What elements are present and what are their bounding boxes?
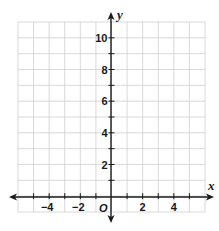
x-tick-label: 2 (140, 201, 146, 213)
y-tick-label: 2 (101, 159, 107, 171)
x-axis-label: x (207, 178, 215, 193)
coordinate-plane: −4−224246810 x y O (0, 0, 219, 231)
x-tick-label: −4 (41, 201, 54, 213)
y-tick-label: 4 (101, 127, 108, 139)
origin-label: O (99, 202, 108, 214)
x-tick-label: −2 (72, 201, 85, 213)
y-tick-label: 10 (95, 32, 107, 44)
x-tick-label: 4 (171, 201, 178, 213)
tick-labels: −4−224246810 (41, 32, 178, 213)
y-axis-label: y (115, 7, 123, 22)
y-tick-label: 6 (101, 95, 107, 107)
y-tick-label: 8 (101, 64, 107, 76)
